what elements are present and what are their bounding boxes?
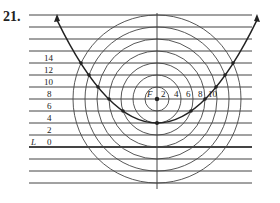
- svg-text:4: 4: [47, 113, 52, 123]
- svg-text:14: 14: [44, 53, 54, 63]
- svg-text:12: 12: [44, 65, 53, 75]
- parabola-diagram: 21. F 2: [0, 0, 280, 203]
- y-labels: 14 12 10 8 6 4 2 L 0: [30, 53, 54, 147]
- svg-text:10: 10: [44, 77, 54, 87]
- radius-labels: 2 4 6 8 10: [161, 89, 218, 99]
- svg-text:6: 6: [186, 89, 191, 99]
- directrix-label: L: [30, 137, 36, 147]
- focus-label: F: [146, 89, 153, 99]
- svg-text:6: 6: [47, 101, 52, 111]
- svg-text:10: 10: [208, 89, 218, 99]
- svg-text:2: 2: [161, 89, 166, 99]
- svg-text:8: 8: [198, 89, 203, 99]
- focus-point: [155, 97, 159, 101]
- svg-text:8: 8: [47, 89, 52, 99]
- svg-text:4: 4: [174, 89, 179, 99]
- svg-text:0: 0: [47, 137, 52, 147]
- horizontal-lines: [29, 15, 252, 183]
- svg-text:2: 2: [47, 125, 52, 135]
- arrow-right-icon: [254, 14, 260, 22]
- problem-number: 21.: [3, 9, 21, 24]
